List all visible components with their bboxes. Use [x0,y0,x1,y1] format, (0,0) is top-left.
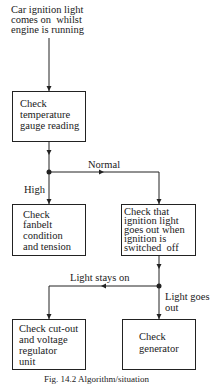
node-text: unit [19,357,35,368]
node-text: Check [139,332,166,343]
node-text: temperature [20,110,70,121]
node-text: condition [23,231,63,242]
node-text: and voltage [19,335,68,346]
node-check-cutout-regulator: Check cut-out and voltage regulator unit [12,319,86,370]
node-text: Check [20,99,47,110]
node-text: and tension [23,242,71,253]
node-check-temperature: Check temperature gauge reading [12,91,86,142]
node-text: regulator [19,346,57,357]
node-text: switched off [124,243,179,254]
node-check-fanbelt: Check fanbelt condition and tension [12,204,86,256]
node-check-ignition-light: Check that ignition light goes out when … [121,204,196,256]
edge-label-light-goes-out-line-2: out [165,303,178,314]
figure-caption: Fig. 14.2 Algorithm/situation [44,374,149,384]
edge-label-normal: Normal [88,160,120,171]
node-text: gauge reading [20,121,79,132]
node-check-generator: Check generator [122,319,196,370]
edge-label-light-goes-out-line-1: Light goes [165,292,210,303]
edge-label-high: High [24,185,45,196]
node-text: fanbelt [23,220,52,231]
node-text: generator [139,344,179,355]
start-condition-line-3: engine is running [11,25,84,36]
edge-label-light-stays-on: Light stays on [70,273,130,284]
node-text: Check cut-out [19,324,78,335]
